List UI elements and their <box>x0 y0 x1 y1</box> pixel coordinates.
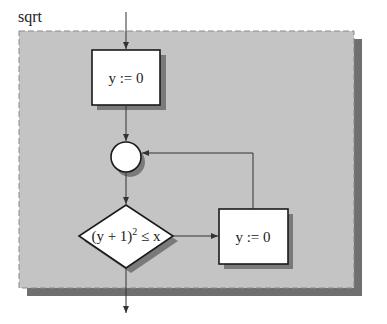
join-node[interactable] <box>111 142 141 172</box>
cond-node-label: (y + 1)2 ≤ x <box>91 226 161 245</box>
init-node-label: y := 0 <box>108 70 143 86</box>
flowchart: y := 0 (y + 1)2 ≤ x y := 0 <box>0 0 387 324</box>
body-node-label: y := 0 <box>235 229 270 245</box>
function-panel <box>19 31 354 288</box>
